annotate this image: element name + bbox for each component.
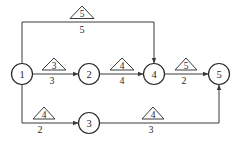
edge-4-5: 5 2: [165, 58, 208, 86]
node-4: 4: [144, 64, 165, 85]
triangle-badge: 4: [110, 58, 134, 71]
node-label: 2: [86, 69, 91, 80]
triangle-label: 4: [120, 61, 125, 71]
node-label: 1: [19, 69, 24, 80]
triangle-label: 4: [42, 110, 47, 120]
edge-3-5: 4 3: [100, 85, 219, 135]
edge-1-4: 5 5: [22, 6, 154, 64]
triangle-badge: 5: [70, 6, 94, 19]
node-3: 3: [79, 113, 100, 134]
triangle-label: 5: [80, 9, 85, 19]
node-5: 5: [209, 64, 230, 85]
node-label: 3: [86, 118, 91, 129]
edge-1-3: 4 2: [22, 84, 78, 135]
triangle-badge: 4: [142, 107, 164, 120]
node-2: 2: [79, 64, 100, 85]
triangle-label: 3: [52, 61, 57, 71]
network-diagram: 5 5 3 3 4 4 5 2 4 2: [0, 0, 242, 146]
triangle-badge: 4: [33, 107, 55, 120]
node-1: 1: [12, 64, 33, 85]
duration-label: 5: [80, 24, 85, 35]
duration-label: 2: [38, 124, 43, 135]
triangle-badge: 5: [175, 58, 197, 71]
triangle-label: 5: [184, 61, 189, 71]
duration-label: 2: [182, 75, 187, 86]
triangle-label: 4: [151, 110, 156, 120]
duration-label: 4: [120, 75, 125, 86]
triangle-badge: 3: [42, 58, 66, 71]
node-label: 4: [151, 69, 157, 80]
duration-label: 3: [149, 124, 154, 135]
edge-line: [22, 22, 154, 64]
edge-1-2: 3 3: [32, 58, 78, 86]
node-label: 5: [216, 69, 221, 80]
duration-label: 3: [50, 75, 55, 86]
edge-2-4: 4 4: [100, 58, 143, 86]
